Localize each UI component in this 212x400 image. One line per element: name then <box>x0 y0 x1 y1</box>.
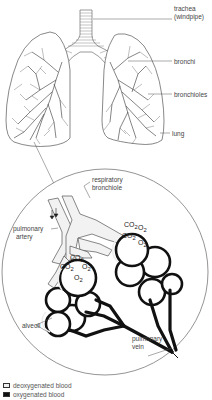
subscript: 2 <box>71 266 74 272</box>
label-bronchi: bronchi <box>174 58 195 66</box>
legend-deoxygenated: deoxygenated blood <box>3 382 72 389</box>
co2-text: CO <box>122 232 133 239</box>
pulmonary-text: pulmonary <box>13 225 43 233</box>
co2-text: CO <box>70 254 81 261</box>
oxygenated-swatch <box>3 392 10 397</box>
gas-o2: O2 <box>138 224 147 233</box>
co2-text: CO <box>124 221 135 228</box>
gas-co2: CO2 <box>70 254 84 263</box>
label-bronchioles: bronchioles <box>174 91 207 99</box>
left-lung <box>6 32 70 147</box>
magnification-circle <box>2 169 208 375</box>
right-lung <box>102 34 164 145</box>
legend-oxygenated: oxygenated blood <box>3 391 64 398</box>
gas-co2: CO2 <box>60 263 74 272</box>
label-respiratory-bronchiole: respiratory bronchiole <box>92 176 123 191</box>
subscript: 2 <box>87 266 90 272</box>
label-alveoli: alveoli <box>22 322 40 330</box>
label-pulmonary-artery: pulmonary artery <box>13 225 43 240</box>
pulmonary-vein-text-1: pulmonary <box>132 335 162 343</box>
co2-text: CO <box>60 263 71 270</box>
windpipe-text: (windpipe) <box>174 13 204 21</box>
subscript: 2 <box>143 227 146 233</box>
oxygenated-label: oxygenated blood <box>13 391 64 398</box>
subscript: 2 <box>143 242 146 248</box>
gas-o2: O2 <box>138 239 147 248</box>
deoxygenated-swatch <box>3 383 10 388</box>
trachea-text: trachea <box>174 5 204 13</box>
bronchiole-text: bronchiole <box>92 184 123 192</box>
deoxygenated-label: deoxygenated blood <box>13 382 72 389</box>
subscript: 2 <box>133 235 136 241</box>
label-pulmonary-vein: pulmonary vein <box>132 335 162 350</box>
vein-text: vein <box>132 343 162 351</box>
gas-co2: CO2 <box>122 232 136 241</box>
label-trachea: trachea (windpipe) <box>174 5 204 20</box>
artery-text: artery <box>13 233 43 241</box>
gas-co2: CO2 <box>124 221 138 230</box>
subscript: 2 <box>79 277 82 283</box>
gas-o2: O2 <box>82 263 91 272</box>
respiratory-text: respiratory <box>92 176 123 184</box>
gas-o2: O2 <box>74 274 83 283</box>
label-lung: lung <box>172 130 184 138</box>
